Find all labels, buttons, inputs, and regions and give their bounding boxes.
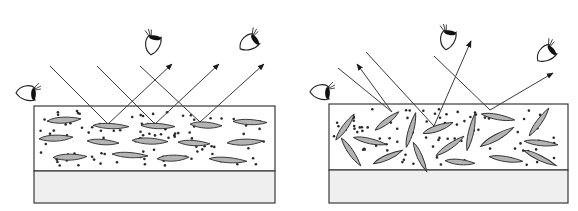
incident-ray xyxy=(434,56,490,110)
eye-icon xyxy=(234,26,265,55)
eye-icon xyxy=(16,83,41,101)
panel-right-label: Randomly oriented flakes: diffuse reflec… xyxy=(0,0,19,1)
panel-random-flakes xyxy=(310,23,568,203)
panel-aligned-flakes xyxy=(16,26,275,203)
diagram-canvas xyxy=(0,0,578,211)
reflection-diagram: Aligned flakes: specular reflection Rand… xyxy=(0,0,578,211)
eye-icon xyxy=(141,28,163,56)
eye-icon xyxy=(436,23,458,51)
substrate-layer xyxy=(329,170,568,203)
substrate-layer xyxy=(34,171,275,203)
eye-icon xyxy=(531,37,561,67)
eye-icon xyxy=(310,82,335,100)
